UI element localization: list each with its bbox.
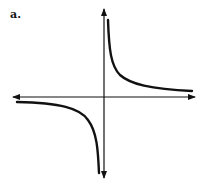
hyperbola-branch-quadrant-3 <box>17 102 99 173</box>
hyperbola-branch-quadrant-1 <box>108 20 192 91</box>
hyperbola-graph <box>0 0 205 180</box>
